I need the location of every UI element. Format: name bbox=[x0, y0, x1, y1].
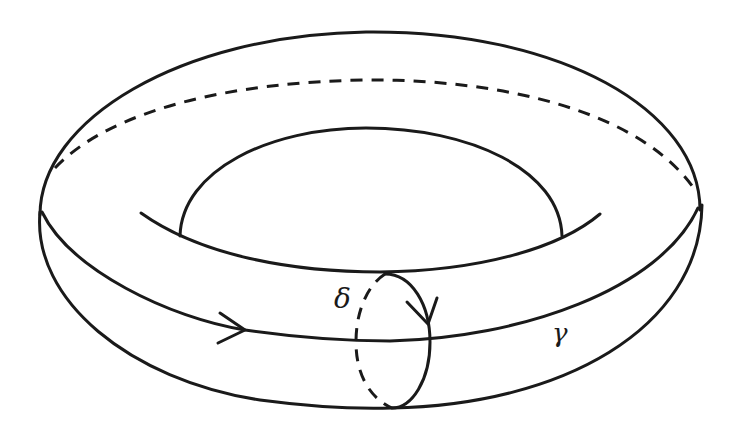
torus-hidden-back-curve bbox=[55, 80, 695, 190]
torus-diagram: δ γ bbox=[0, 0, 732, 426]
torus-outer-bottom-edge bbox=[40, 205, 702, 408]
torus-inner-hole-edge bbox=[180, 128, 562, 236]
gamma-curve bbox=[42, 208, 698, 341]
torus-svg bbox=[0, 0, 732, 426]
torus-inner-front-lip bbox=[141, 213, 600, 272]
torus-outer-top-edge bbox=[40, 32, 700, 215]
gamma-label: γ bbox=[552, 318, 568, 348]
delta-label: δ bbox=[334, 282, 351, 315]
